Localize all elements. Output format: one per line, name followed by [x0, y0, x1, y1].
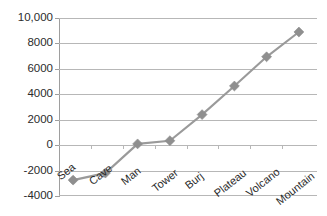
- line-chart: 10,000 8000 6000 4000 2000 0 -2000 -4000: [0, 0, 327, 216]
- data-markers: [68, 27, 304, 185]
- data-point-sea: [68, 175, 78, 185]
